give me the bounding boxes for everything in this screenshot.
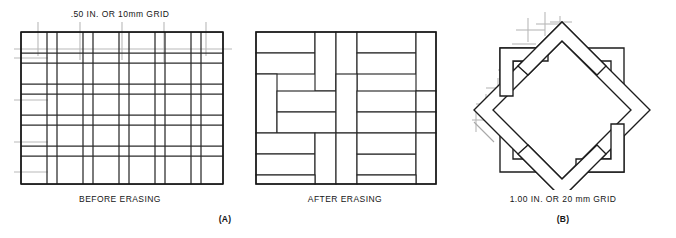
basket-weave-tiles xyxy=(256,32,436,184)
figure-label-b: (B) xyxy=(450,214,676,224)
grid-spacing-title: .50 IN. OR 10mm GRID xyxy=(0,9,240,19)
before-erasing-grid-drawing xyxy=(0,0,240,190)
caption-grid-spacing-b: 1.00 IN. OR 20 mm GRID xyxy=(450,194,676,204)
interlocking-squares-drawing xyxy=(450,0,676,190)
panel-before-erasing: .50 IN. OR 10mm GRID xyxy=(0,0,240,238)
figure-label-a: (A) xyxy=(0,214,450,224)
panel-after-erasing: AFTER ERASING xyxy=(240,0,450,238)
after-erasing-weave-drawing xyxy=(240,0,450,190)
drawing-plate: .50 IN. OR 10mm GRID xyxy=(0,0,676,238)
caption-before-erasing: BEFORE ERASING xyxy=(0,194,240,204)
panel-interlocking-squares: 1.00 IN. OR 20 mm GRID (B) xyxy=(450,0,676,238)
caption-after-erasing: AFTER ERASING xyxy=(240,194,450,204)
